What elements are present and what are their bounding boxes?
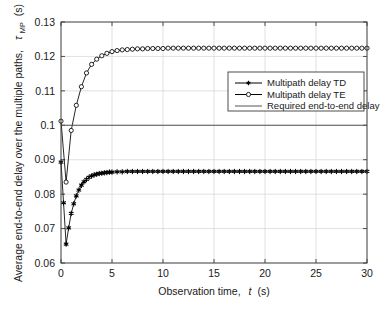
y-tick-label: 0.12 xyxy=(35,50,56,62)
data-point-marker xyxy=(232,46,236,50)
data-point-marker xyxy=(105,51,109,55)
y-tick-label: 0.09 xyxy=(35,153,56,165)
data-point-marker xyxy=(329,46,333,50)
data-point-marker xyxy=(217,46,221,50)
data-point-marker xyxy=(125,47,129,51)
data-point-marker xyxy=(110,50,114,54)
data-point-marker xyxy=(202,46,206,50)
data-point-marker xyxy=(248,46,252,50)
y-tick-label: 0.11 xyxy=(35,85,55,97)
data-point-marker xyxy=(294,46,298,50)
data-point-marker xyxy=(90,62,94,66)
chart-legend[interactable]: Multipath delay TDMultipath delay TERequ… xyxy=(228,72,380,111)
data-point-marker xyxy=(222,46,226,50)
data-point-marker xyxy=(120,48,124,52)
data-point-marker xyxy=(186,46,190,50)
data-point-marker xyxy=(314,46,318,50)
data-point-marker xyxy=(339,46,343,50)
data-point-marker xyxy=(304,46,308,50)
data-point-marker xyxy=(237,46,241,50)
data-point-marker xyxy=(283,46,287,50)
data-point-marker xyxy=(161,46,165,50)
data-point-marker xyxy=(212,46,216,50)
data-point-marker xyxy=(69,128,73,132)
data-point-marker xyxy=(319,46,323,50)
x-tick-label: 30 xyxy=(361,267,373,279)
data-point-marker xyxy=(79,85,83,89)
data-point-marker xyxy=(192,46,196,50)
data-point-marker xyxy=(355,46,359,50)
data-point-marker xyxy=(95,57,99,61)
data-point-marker xyxy=(100,54,104,58)
data-point-marker xyxy=(345,46,349,50)
data-point-marker xyxy=(268,46,272,50)
data-point-marker xyxy=(84,71,88,75)
data-point-marker xyxy=(253,46,257,50)
data-point-marker xyxy=(135,47,139,51)
y-axis-title-symbol: τ xyxy=(12,35,24,40)
data-point-marker xyxy=(273,46,277,50)
x-tick-label: 5 xyxy=(109,267,115,279)
y-tick-label: 0.06 xyxy=(35,257,56,269)
data-point-marker xyxy=(309,46,313,50)
y-tick-label: 0.08 xyxy=(35,188,56,200)
chart-figure: 051015202530 0.060.070.080.090.10.110.12… xyxy=(0,0,390,314)
y-tick-label: 0.07 xyxy=(35,222,56,234)
x-axis-title-variable: t xyxy=(249,285,253,297)
data-point-marker xyxy=(263,46,267,50)
data-point-marker xyxy=(146,46,150,50)
data-point-marker xyxy=(227,46,231,50)
data-point-marker xyxy=(141,47,145,51)
data-point-marker xyxy=(288,46,292,50)
data-point-marker xyxy=(243,46,247,50)
data-point-marker xyxy=(64,180,68,184)
y-axis-title-units: (s) xyxy=(12,4,24,16)
data-point-marker xyxy=(197,46,201,50)
data-point-marker xyxy=(207,46,211,50)
data-point-marker xyxy=(176,46,180,50)
data-point-marker xyxy=(130,47,134,51)
data-point-marker xyxy=(334,46,338,50)
data-point-marker xyxy=(324,46,328,50)
data-point-marker xyxy=(278,46,282,50)
data-point-marker xyxy=(74,103,78,107)
x-tick-label: 15 xyxy=(208,267,220,279)
data-point-marker xyxy=(166,46,170,50)
data-point-marker xyxy=(360,46,364,50)
data-point-marker xyxy=(350,46,354,50)
x-axis-title: Observation time, t (s) xyxy=(158,285,269,297)
data-point-marker xyxy=(299,46,303,50)
y-axis-title-subscript: MP xyxy=(18,22,27,33)
data-point-marker xyxy=(115,48,119,52)
legend-label: Multipath delay TE xyxy=(267,89,346,100)
legend-label: Required end-to-end delay xyxy=(267,100,380,111)
data-point-marker xyxy=(181,46,185,50)
data-point-marker xyxy=(171,46,175,50)
data-point-marker xyxy=(258,46,262,50)
x-tick-label: 0 xyxy=(58,267,64,279)
x-axis-title-prefix: Observation time, xyxy=(158,285,240,297)
y-axis-title-main: Average end-to-end delay over the multip… xyxy=(12,50,24,282)
y-tick-label: 0.1 xyxy=(40,119,55,131)
legend-marker xyxy=(246,92,250,96)
data-point-marker xyxy=(151,46,155,50)
data-point-marker xyxy=(156,46,160,50)
x-axis-title-units: (s) xyxy=(257,285,269,297)
x-tick-label: 20 xyxy=(259,267,271,279)
legend-label: Multipath delay TD xyxy=(267,77,346,88)
svg-text:Observation time, t: Observation time, t (s) xyxy=(158,285,269,297)
multipath-delay-chart: 051015202530 0.060.070.080.090.10.110.12… xyxy=(0,0,390,314)
y-tick-label: 0.13 xyxy=(35,16,56,28)
x-tick-label: 25 xyxy=(310,267,322,279)
x-tick-label: 10 xyxy=(157,267,169,279)
